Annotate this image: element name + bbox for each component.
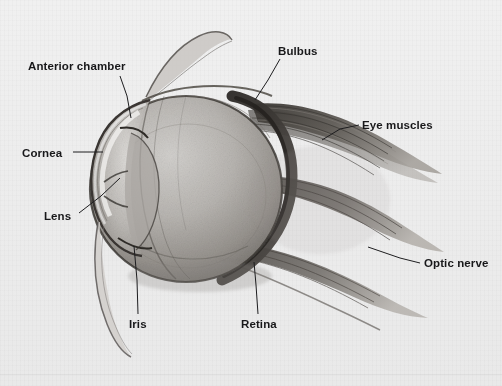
label-cornea: Cornea [22, 147, 62, 159]
label-lens: Lens [44, 210, 71, 222]
eye-anatomy-figure: Anterior chamber Bulbus Eye muscles Corn… [0, 0, 502, 386]
label-anterior-chamber: Anterior chamber [28, 60, 125, 72]
label-retina: Retina [241, 318, 277, 330]
label-optic-nerve: Optic nerve [424, 257, 488, 269]
label-iris: Iris [129, 318, 147, 330]
label-eye-muscles: Eye muscles [362, 119, 433, 131]
label-bulbus: Bulbus [278, 45, 318, 57]
label-layer: Anterior chamber Bulbus Eye muscles Corn… [0, 0, 502, 386]
